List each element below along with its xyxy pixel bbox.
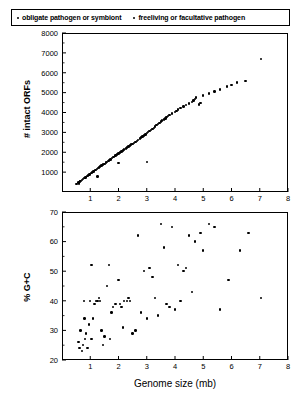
data-point (96, 175, 98, 177)
data-point (244, 80, 246, 82)
svg-text:5: 5 (201, 362, 205, 371)
data-point (157, 314, 159, 316)
data-point (93, 303, 95, 305)
svg-text:3: 3 (145, 362, 149, 371)
data-point (199, 102, 201, 104)
svg-text:1: 1 (88, 362, 92, 371)
svg-text:2: 2 (116, 194, 120, 203)
data-point (79, 329, 81, 331)
data-point (127, 297, 129, 299)
data-point (83, 317, 85, 319)
legend-entry-freeliving: freeliving or facultative pathogen (133, 14, 245, 21)
data-point (163, 246, 165, 248)
svg-text:8: 8 (286, 362, 290, 371)
svg-text:2: 2 (116, 362, 120, 371)
svg-text:5000: 5000 (41, 88, 58, 97)
svg-text:3: 3 (145, 194, 149, 203)
data-point (151, 276, 153, 278)
y-axis-label-top: # intact ORFs (22, 69, 32, 149)
svg-text:7: 7 (258, 194, 262, 203)
data-point (134, 329, 136, 331)
legend-label-freeliving: freeliving or facultative pathogen (138, 14, 245, 21)
svg-text:40: 40 (50, 297, 58, 306)
data-point (146, 317, 148, 319)
svg-text:6000: 6000 (41, 69, 58, 78)
svg-text:20: 20 (50, 356, 58, 365)
y-axis-label-bottom: % G+C (22, 256, 32, 318)
legend-label-obligate: obligate pathogen or symbiont (22, 14, 121, 21)
svg-text:7: 7 (258, 362, 262, 371)
svg-text:8: 8 (286, 194, 290, 203)
svg-text:1000: 1000 (41, 168, 58, 177)
data-point (129, 300, 131, 302)
data-point (199, 232, 201, 234)
data-point (194, 240, 196, 242)
svg-text:6: 6 (229, 194, 233, 203)
dot-marker-icon (133, 17, 135, 19)
plot-frame-bottom (62, 212, 288, 360)
svg-text:60: 60 (50, 237, 58, 246)
data-point (114, 303, 116, 305)
data-point (117, 279, 119, 281)
svg-text:2000: 2000 (41, 148, 58, 157)
chart-legend: obligate pathogen or symbiont freeliving… (11, 9, 290, 26)
data-point (213, 90, 215, 92)
data-point (103, 335, 105, 337)
data-point (131, 332, 133, 334)
data-point (122, 326, 124, 328)
data-point (112, 306, 114, 308)
svg-text:3000: 3000 (41, 128, 58, 137)
data-point (208, 92, 210, 94)
data-point (208, 223, 210, 225)
svg-text:7000: 7000 (41, 49, 58, 58)
data-point (168, 306, 170, 308)
svg-text:70: 70 (50, 208, 58, 217)
figure-container: obligate pathogen or symbiont freeliving… (0, 0, 303, 412)
data-point (92, 317, 94, 319)
legend-entry-obligate: obligate pathogen or symbiont (17, 14, 121, 21)
svg-text:1: 1 (88, 194, 92, 203)
data-point (247, 232, 249, 234)
x-axis-label: Genome size (mb) (62, 378, 288, 389)
data-point (119, 303, 121, 305)
data-point (179, 300, 181, 302)
svg-text:4: 4 (173, 194, 177, 203)
data-point (230, 84, 232, 86)
data-point (160, 223, 162, 225)
data-point (165, 303, 167, 305)
data-point (110, 311, 112, 313)
data-point (88, 323, 90, 325)
svg-text:6: 6 (229, 362, 233, 371)
svg-text:50: 50 (50, 267, 58, 276)
data-point (98, 297, 100, 299)
svg-text:4000: 4000 (41, 108, 58, 117)
svg-text:4: 4 (173, 362, 177, 371)
data-point (78, 182, 80, 184)
svg-text:8000: 8000 (41, 29, 58, 38)
data-point (120, 306, 122, 308)
data-point (239, 249, 241, 251)
data-point (100, 329, 102, 331)
svg-text:5: 5 (201, 194, 205, 203)
data-point (174, 308, 176, 310)
svg-text:30: 30 (50, 326, 58, 335)
data-point (213, 226, 215, 228)
dot-marker-icon (17, 17, 19, 19)
